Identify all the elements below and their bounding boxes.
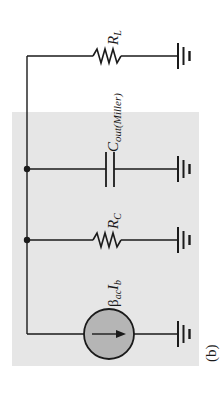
rl-resistor-zigzag bbox=[93, 49, 121, 63]
junction-dot-bottom bbox=[24, 237, 30, 243]
junction-dot-top bbox=[24, 166, 30, 172]
rl-label: RL bbox=[105, 30, 123, 46]
circuit-diagram: RL Cout(Miller) RC βacIb (b) bbox=[0, 0, 221, 394]
figure-label: (b) bbox=[203, 345, 220, 363]
ground-icon-rl bbox=[178, 43, 190, 69]
